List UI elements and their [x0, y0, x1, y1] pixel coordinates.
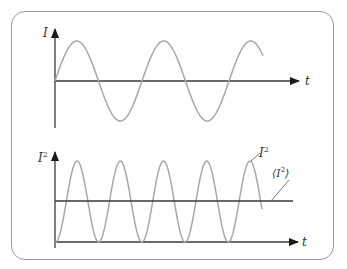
curve-label: I2 [258, 145, 269, 160]
mean-label-leader [271, 180, 289, 201]
top-plot: I t [42, 26, 310, 128]
bottom-y-label: I2 [37, 150, 48, 165]
mean-label: ⟨I2⟩ [272, 166, 289, 180]
bottom-x-label: t [302, 235, 307, 249]
top-x-label: t [305, 74, 310, 88]
figure-diagram: I t I2 t I2 ⟨I2⟩ [0, 0, 347, 269]
top-y-label: I [42, 26, 48, 40]
bottom-plot: I2 t I2 ⟨I2⟩ [37, 145, 307, 249]
